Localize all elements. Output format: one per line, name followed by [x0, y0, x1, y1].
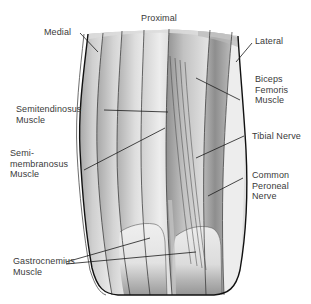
orientation-label-medial: Medial: [44, 27, 104, 38]
structure-label-semitendinosus: Semitendinosus Muscle: [16, 104, 108, 125]
structure-label-common-peroneal-nerve: Common Peroneal Nerve: [252, 170, 310, 202]
structure-label-gastrocnemius: Gastrocnemius Muscle: [13, 256, 105, 277]
orientation-label-proximal: Proximal: [124, 13, 194, 24]
gastrocnemius-medial-head: [119, 223, 167, 295]
structure-label-tibial-nerve: Tibial Nerve: [252, 131, 311, 142]
gastrocnemius-lateral-head: [173, 226, 222, 295]
structure-label-biceps-femoris: Biceps Femoris Muscle: [255, 74, 311, 106]
structure-label-semimembranosus: Semi- membranosus Muscle: [10, 148, 90, 180]
orientation-label-lateral: Lateral: [255, 36, 310, 47]
anatomy-figure: Proximal Medial Lateral Semitendinosus M…: [0, 0, 311, 304]
